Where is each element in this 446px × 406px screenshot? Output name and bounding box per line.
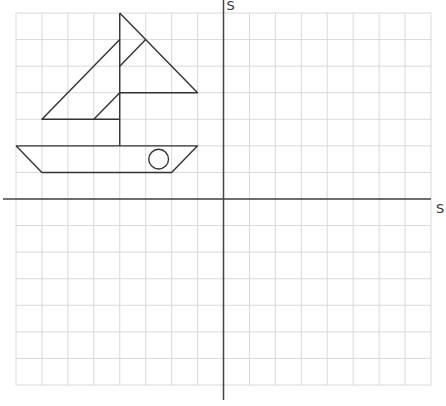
left-sail-inner-line (94, 93, 120, 120)
grid-diagram: S S (0, 0, 446, 406)
vertical-axis-label: S (227, 0, 235, 13)
right-sail-inner-line (120, 40, 146, 67)
left-sail-outline (42, 40, 120, 120)
axes: S S (3, 0, 444, 400)
horizontal-axis-label: S (436, 201, 444, 216)
right-sail-outline (120, 13, 198, 93)
hull (16, 146, 198, 173)
porthole-circle (149, 149, 169, 169)
